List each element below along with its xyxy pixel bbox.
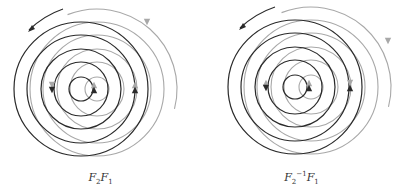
gray-orbit-circle [85,77,109,101]
black-orbit-circle [54,62,108,116]
black-orbit-circle [283,75,307,99]
black-orbit-circle [268,60,322,114]
black-orbit-circle [228,20,362,154]
gray-outer-arc [282,7,391,107]
caption-sup: −1 [296,170,306,178]
circle-diagram-left [0,0,201,170]
circle-diagram-right [201,0,402,170]
caption-base: F [101,171,109,184]
caption-sub: 1 [108,178,112,186]
gray-outer-arc [68,9,177,109]
arrow-down-icon [385,38,391,44]
gray-orbit-circle [299,75,323,99]
black-orbit-circle [14,22,148,156]
black-orbit-circle [69,77,93,101]
caption-f2f1: F2F1 [0,170,201,186]
black-outer-arc [29,9,63,30]
caption-f2inv-f1: F2−1F1 [201,170,402,186]
caption-base: F [284,171,292,184]
figure-f2inv-f1: F2−1F1 [201,0,402,194]
caption-sub: 1 [314,178,318,186]
figure-f2f1: F2F1 [0,0,201,194]
caption-base: F [88,171,96,184]
caption-sub: 2 [292,178,296,186]
arrow-up-icon [347,85,353,91]
